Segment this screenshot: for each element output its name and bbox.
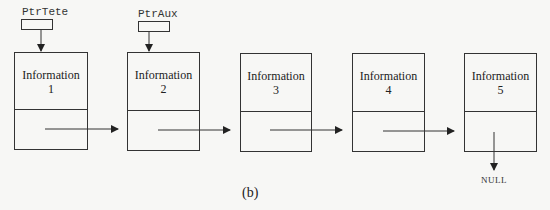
arrows-layer bbox=[0, 0, 550, 210]
null-terminator-label: NULL bbox=[481, 175, 507, 185]
linked-list-diagram: PtrTete PtrAux Information 1 Information… bbox=[0, 0, 550, 210]
figure-caption: (b) bbox=[242, 185, 258, 201]
